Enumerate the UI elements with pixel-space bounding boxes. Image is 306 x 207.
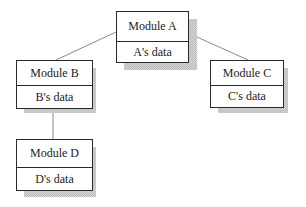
module-b-data: B's data bbox=[17, 86, 92, 108]
module-hierarchy-diagram: Module A A's data Module B B's data Modu… bbox=[0, 0, 306, 207]
module-a: Module A A's data bbox=[116, 11, 189, 63]
module-b-name: Module B bbox=[17, 61, 92, 86]
module-c-data: C's data bbox=[211, 86, 283, 107]
module-b: Module B B's data bbox=[16, 60, 93, 109]
connector-a-b bbox=[56, 32, 116, 60]
module-d-data: D's data bbox=[17, 168, 92, 190]
module-a-data: A's data bbox=[117, 42, 188, 62]
module-c: Module C C's data bbox=[210, 60, 284, 108]
module-c-name: Module C bbox=[211, 61, 283, 86]
module-d-name: Module D bbox=[17, 140, 92, 168]
module-a-name: Module A bbox=[117, 12, 188, 42]
connector-a-c bbox=[188, 33, 248, 60]
module-d: Module D D's data bbox=[16, 139, 93, 191]
